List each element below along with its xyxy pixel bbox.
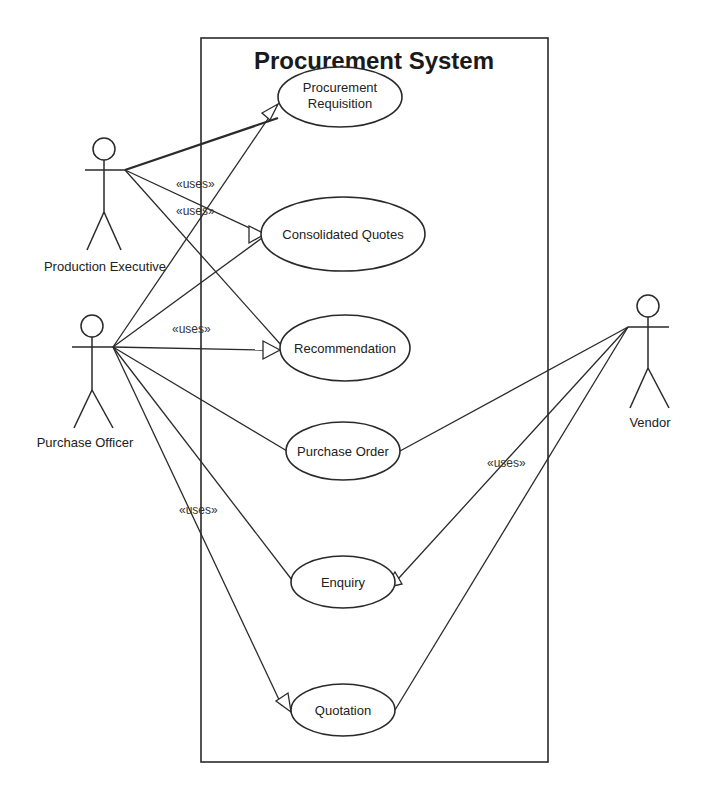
use-case-quotation: Quotation bbox=[291, 684, 395, 736]
actor-vendor: Vendor bbox=[628, 295, 671, 430]
uses-label: «uses» bbox=[179, 503, 218, 517]
uses-label: «uses» bbox=[172, 322, 211, 336]
assoc-vendor-purchase-order bbox=[400, 327, 628, 451]
stick-figure-icon bbox=[628, 295, 669, 408]
associations-vendor bbox=[395, 327, 628, 710]
uses-officer-quotation bbox=[113, 347, 282, 706]
arrowhead-quotation bbox=[276, 693, 291, 712]
uses-label: «uses» bbox=[176, 204, 215, 218]
use-case-label: Consolidated Quotes bbox=[282, 227, 404, 242]
uses-vendor-enquiry bbox=[398, 327, 628, 579]
system-title: Procurement System bbox=[254, 47, 494, 74]
associations-purchase-officer bbox=[113, 104, 292, 706]
use-case-label-line2: Requisition bbox=[308, 96, 372, 111]
arrowhead-recommendation bbox=[263, 341, 280, 359]
stick-figure-icon bbox=[85, 138, 125, 250]
actor-production-executive: Production Executive bbox=[44, 138, 166, 274]
uses-label: «uses» bbox=[176, 177, 215, 191]
actor-label: Vendor bbox=[629, 415, 671, 430]
actor-purchase-officer: Purchase Officer bbox=[37, 315, 134, 450]
assoc-prodexec-recommendation bbox=[125, 170, 282, 346]
use-case-label: Purchase Order bbox=[297, 444, 389, 459]
assoc-vendor-quotation bbox=[395, 327, 628, 710]
assoc-officer-enquiry bbox=[113, 347, 292, 580]
use-case-label: Quotation bbox=[315, 703, 371, 718]
uses-officer-requisition bbox=[113, 104, 278, 347]
use-case-purchase-order: Purchase Order bbox=[286, 422, 400, 480]
use-case-label: Recommendation bbox=[294, 341, 396, 356]
arrowheads bbox=[249, 104, 402, 712]
assoc-officer-purchase-order bbox=[113, 347, 287, 451]
use-case-enquiry: Enquiry bbox=[291, 556, 395, 608]
use-case-label-line1: Procurement bbox=[303, 80, 378, 95]
arrowhead-requisition bbox=[262, 104, 278, 120]
actor-label: Production Executive bbox=[44, 259, 166, 274]
system-boundary bbox=[201, 38, 548, 762]
uses-officer-recommendation bbox=[113, 347, 263, 350]
use-case-label: Enquiry bbox=[321, 575, 366, 590]
stick-figure-icon bbox=[72, 315, 113, 428]
uses-label: «uses» bbox=[487, 456, 526, 470]
use-case-consolidated-quotes: Consolidated Quotes bbox=[261, 197, 425, 271]
use-case-procurement-requisition: Procurement Requisition bbox=[278, 67, 402, 127]
actor-label: Purchase Officer bbox=[37, 435, 134, 450]
use-case-recommendation: Recommendation bbox=[280, 315, 410, 381]
use-case-diagram: Procurement System Procurement Requisiti… bbox=[0, 0, 708, 799]
